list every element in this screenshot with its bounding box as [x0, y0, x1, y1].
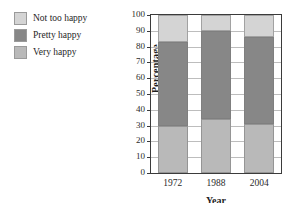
y-axis-tick-label: 80 — [121, 41, 145, 51]
y-axis-tick-label: 10 — [121, 151, 145, 161]
legend-label-not-too-happy: Not too happy — [33, 13, 87, 24]
bar-segment-very-happy-2004 — [244, 124, 274, 173]
bar-1988 — [201, 15, 231, 173]
bar-segment-pretty-happy-1988 — [201, 31, 231, 119]
legend-swatch-very-happy — [14, 46, 27, 59]
y-axis-tick-label: 100 — [121, 9, 145, 19]
legend-swatch-not-too-happy — [14, 12, 27, 25]
y-axis-tick — [147, 141, 151, 142]
x-axis-tick-label: 2004 — [236, 178, 282, 188]
y-axis-tick-label: 20 — [121, 135, 145, 145]
y-axis-tick — [147, 126, 151, 127]
x-axis-tick-label: 1972 — [150, 178, 196, 188]
y-axis-tick — [147, 78, 151, 79]
chart-legend: Not too happy Pretty happy Very happy — [14, 11, 126, 62]
bar-2004 — [244, 15, 274, 173]
bar-segment-not-too-happy-2004 — [244, 15, 274, 37]
bar-segment-pretty-happy-2004 — [244, 37, 274, 124]
x-axis-tick-label: 1988 — [193, 178, 239, 188]
bar-segment-not-too-happy-1972 — [158, 15, 188, 42]
bar-segment-pretty-happy-1972 — [158, 42, 188, 126]
stacked-bar-chart: Not too happy Pretty happy Very happy Pe… — [0, 0, 293, 203]
y-axis-tick — [147, 62, 151, 63]
y-axis-tick-label: 50 — [121, 88, 145, 98]
y-axis-tick-label: 30 — [121, 120, 145, 130]
y-axis-tick — [147, 173, 151, 174]
legend-swatch-pretty-happy — [14, 29, 27, 42]
y-axis-tick-label: 90 — [121, 25, 145, 35]
y-axis-tick-label: 60 — [121, 72, 145, 82]
bar-1972 — [158, 15, 188, 173]
bar-segment-not-too-happy-1988 — [201, 15, 231, 31]
legend-item-not-too-happy: Not too happy — [14, 11, 126, 26]
legend-item-pretty-happy: Pretty happy — [14, 28, 126, 43]
bar-segment-very-happy-1988 — [201, 119, 231, 173]
x-axis-title: Year — [151, 195, 281, 203]
y-axis-tick — [147, 47, 151, 48]
y-axis-tick-label: 40 — [121, 104, 145, 114]
y-axis-tick — [147, 157, 151, 158]
plot-area: Percentage Year 010203040506070809010019… — [150, 14, 282, 174]
y-axis-tick — [147, 31, 151, 32]
legend-label-pretty-happy: Pretty happy — [33, 30, 81, 41]
legend-item-very-happy: Very happy — [14, 45, 126, 60]
y-axis-tick-label: 0 — [121, 167, 145, 177]
y-axis-tick-label: 70 — [121, 56, 145, 66]
legend-label-very-happy: Very happy — [33, 47, 77, 58]
y-axis-tick — [147, 110, 151, 111]
bar-segment-very-happy-1972 — [158, 126, 188, 173]
y-axis-tick — [147, 15, 151, 16]
y-axis-tick — [147, 94, 151, 95]
